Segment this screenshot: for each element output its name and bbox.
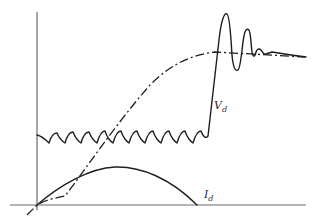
vd-curve <box>37 14 306 143</box>
waveform-diagram <box>0 0 320 219</box>
vd-label-subscript: d <box>222 105 227 114</box>
id-curve <box>37 167 197 205</box>
id-label-subscript: d <box>208 194 213 203</box>
vd-label: Vd <box>214 100 227 114</box>
id-label: Id <box>204 189 213 203</box>
vd-label-main: V <box>214 99 222 112</box>
